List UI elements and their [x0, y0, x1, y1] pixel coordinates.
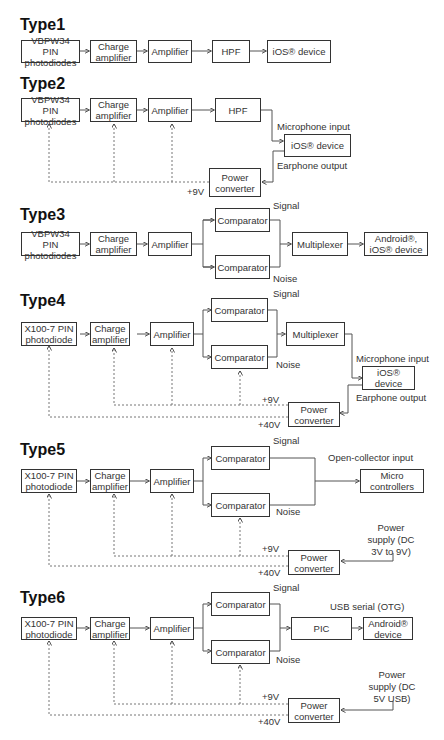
type6-noise-comparator-block: Comparator: [211, 640, 270, 664]
type6-9v-label: +9V: [262, 691, 279, 702]
type1-hpf-block: HPF: [212, 40, 250, 63]
type3-multiplexer-block: Multiplexer: [292, 232, 348, 256]
type4-9v-label: +9V: [262, 394, 279, 405]
type4-mic-label: Microphone input: [356, 353, 429, 364]
type6-noise-label: Noise: [276, 654, 300, 665]
type1-charge-amp-block: Charge amplifier: [90, 40, 137, 63]
type3-title: Type3: [20, 206, 65, 224]
type6-usb-serial-label: USB serial (OTG): [330, 601, 404, 612]
type5-signal-comparator-block: Comparator: [211, 446, 270, 470]
type6-signal-comparator-block: Comparator: [211, 592, 270, 616]
type2-9v-label: +9V: [187, 186, 204, 197]
type6-amp-block: Amplifier: [150, 617, 194, 640]
type2-hpf-block: HPF: [215, 98, 261, 122]
type6-sensor-block: X100-7 PIN photodiode: [21, 617, 77, 640]
type5-power-supply-label: Power supply (DC 3V to 9V): [366, 522, 416, 558]
type6-power-converter-block: Power converter: [288, 698, 340, 723]
type4-title: Type4: [20, 292, 65, 310]
type2-sensor-block: VBPW34 PIN photodiodes: [21, 98, 80, 122]
type1-amp-block: Amplifier: [148, 40, 192, 63]
type2-title: Type2: [20, 75, 65, 93]
type4-multiplexer-block: Multiplexer: [286, 322, 345, 346]
type6-40v-label: +40V: [258, 716, 280, 727]
type6-signal-label: Signal: [273, 582, 299, 593]
type5-microcontroller-block: Micro controllers: [360, 469, 424, 493]
type4-device-block: iOS® device: [362, 366, 415, 390]
type6-power-supply-label: Power supply (DC 5V USB): [366, 669, 418, 705]
type5-signal-label: Signal: [273, 435, 299, 446]
type6-pic-block: PIC: [291, 617, 352, 640]
type6-device-block: Android® device: [363, 617, 413, 640]
type1-device-block: iOS® device: [267, 40, 331, 63]
type4-ear-label: Earphone output: [356, 392, 426, 403]
type5-noise-comparator-block: Comparator: [211, 493, 270, 517]
type4-amp-block: Amplifier: [150, 322, 194, 346]
type1-title: Type1: [20, 16, 65, 34]
type4-noise-comparator-block: Comparator: [211, 345, 268, 369]
type5-amp-block: Amplifier: [150, 469, 194, 493]
type6-charge-amp-block: Charge amplifier: [90, 617, 130, 640]
type4-charge-amp-block: Charge amplifier: [90, 322, 130, 346]
type2-amp-block: Amplifier: [148, 98, 192, 122]
type5-open-collector-label: Open-collector input: [328, 452, 413, 463]
type2-power-converter-block: Power converter: [209, 168, 261, 197]
type2-device-block: iOS® device: [284, 134, 351, 157]
type5-title: Type5: [20, 441, 65, 459]
type3-amp-block: Amplifier: [148, 232, 192, 256]
type4-40v-label: +40V: [258, 419, 280, 430]
type4-noise-label: Noise: [276, 359, 300, 370]
type5-charge-amp-block: Charge amplifier: [90, 469, 130, 493]
type5-9v-label: +9V: [262, 543, 279, 554]
type2-charge-amp-block: Charge amplifier: [90, 98, 137, 122]
type3-noise-label: Noise: [273, 273, 297, 284]
type5-sensor-block: X100-7 PIN photodiode: [21, 469, 77, 493]
type5-noise-label: Noise: [276, 506, 300, 517]
type1-sensor-block: VBPW34 PIN photodiodes: [21, 40, 80, 63]
type3-device-block: Android®, iOS® device: [364, 232, 428, 256]
type4-power-converter-block: Power converter: [288, 402, 340, 427]
type4-sensor-block: X100-7 PIN photodiode: [21, 322, 77, 346]
type5-power-converter-block: Power converter: [288, 550, 340, 575]
type3-sensor-block: VBPW34 PIN photodiodes: [21, 232, 80, 256]
type5-40v-label: +40V: [258, 567, 280, 578]
type4-signal-comparator-block: Comparator: [211, 298, 268, 322]
type2-mic-label: Microphone input: [277, 121, 350, 132]
type3-charge-amp-block: Charge amplifier: [90, 232, 137, 256]
type3-signal-comparator-block: Comparator: [215, 208, 270, 232]
type2-ear-label: Earphone output: [277, 160, 347, 171]
type6-title: Type6: [20, 589, 65, 607]
type3-signal-label: Signal: [273, 200, 299, 211]
type3-noise-comparator-block: Comparator: [215, 255, 270, 279]
type4-signal-label: Signal: [273, 288, 299, 299]
